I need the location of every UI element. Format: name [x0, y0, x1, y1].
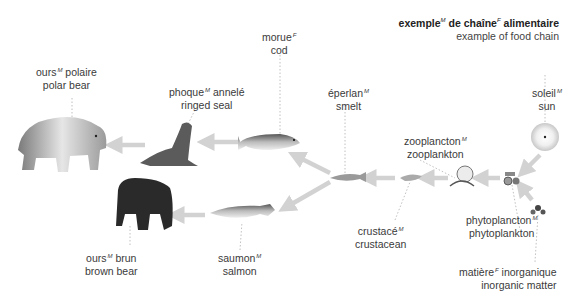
label-inorganic-matter: matièreF inorganique inorganic matter	[459, 264, 556, 292]
label-ringed-seal: phoqueM annelé ringed seal	[169, 84, 245, 112]
smelt-icon	[330, 172, 366, 182]
salmon-icon	[210, 204, 275, 218]
label-cod: morueF cod	[262, 29, 296, 57]
sun-icon	[531, 123, 559, 151]
label-polar-bear: oursM polaire polar bear	[36, 64, 97, 92]
label-sun: soleilM sun	[532, 85, 562, 113]
cod-icon	[238, 134, 300, 150]
label-salmon: saumonM salmon	[218, 250, 261, 278]
arrow-inorganic-phytoplankton	[524, 190, 532, 200]
brown-bear-icon	[116, 178, 173, 230]
arrow-smelt-cod	[300, 158, 330, 173]
label-smelt: éperlanM smelt	[328, 85, 369, 113]
polar-bear-icon	[18, 117, 106, 172]
phytoplankton-icon	[504, 172, 520, 185]
crustacean-icon	[400, 174, 422, 181]
ringed-seal-icon	[140, 122, 198, 166]
label-phytoplankton: phytoplanctonM phytoplankton	[466, 212, 537, 240]
arrow-smelt-salmon	[290, 182, 330, 205]
label-brown-bear: oursM brun brown bear	[85, 250, 138, 278]
arrow-sun-phytoplankton	[527, 155, 540, 168]
label-zooplankton: zooplanctonM zooplankton	[404, 133, 467, 161]
label-crustacean: crustacéM crustacean	[355, 223, 406, 251]
zooplankton-icon	[450, 166, 474, 186]
